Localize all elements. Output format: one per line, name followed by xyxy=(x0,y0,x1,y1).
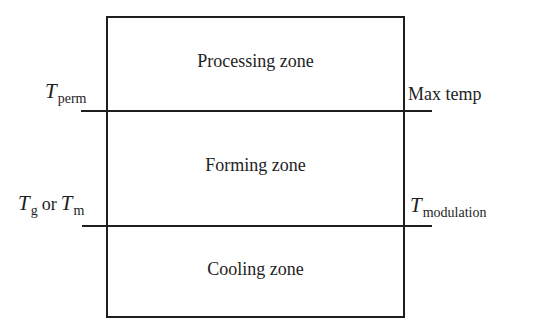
t-perm-symbol: T xyxy=(45,79,57,103)
forming-zone-label: Forming zone xyxy=(106,155,405,175)
t-modulation-label: Tmodulation xyxy=(410,195,486,218)
lower-boundary-line xyxy=(82,225,432,227)
upper-boundary-line xyxy=(81,110,432,112)
t-modulation-symbol: T xyxy=(410,193,422,217)
processing-zone-label: Processing zone xyxy=(106,51,405,71)
t-perm-subscript: perm xyxy=(58,91,87,106)
or-conjunction: or xyxy=(42,194,57,214)
cooling-zone-label: Cooling zone xyxy=(106,259,405,279)
tg-or-tm-label: TgorTm xyxy=(18,193,84,216)
t-perm-label: Tperm xyxy=(45,81,86,104)
max-temp-label: Max temp xyxy=(408,84,482,104)
zone-diagram: Processing zone Forming zone Cooling zon… xyxy=(0,0,534,336)
t-g-symbol: T xyxy=(18,191,30,215)
t-m-subscript: m xyxy=(73,203,84,218)
t-m-symbol: T xyxy=(61,191,73,215)
t-modulation-subscript: modulation xyxy=(423,205,487,220)
t-g-subscript: g xyxy=(31,203,38,218)
